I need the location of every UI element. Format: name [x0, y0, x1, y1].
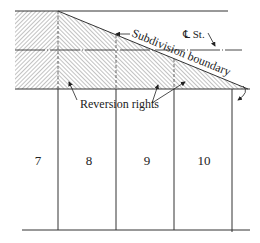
reversion-rights-diagram: 7 8 9 10 ℄ St. Subdivision boundary Reve… [0, 0, 260, 243]
centerline-arrow [208, 33, 215, 46]
reversion-rights-label: Reversion rights [80, 97, 159, 111]
lot-number-10: 10 [198, 153, 211, 168]
centerline-label: ℄ St. [182, 28, 205, 40]
lot-number-7: 7 [35, 153, 42, 168]
lot-number-9: 9 [144, 153, 151, 168]
lot-number-8: 8 [86, 153, 93, 168]
